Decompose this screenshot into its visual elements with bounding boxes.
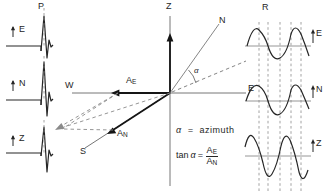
p-wave-traces	[6, 8, 53, 172]
vector-label-AN-sub: N	[123, 131, 128, 138]
p-trace-label-E: E	[19, 25, 25, 34]
equation-tan-fraction: AE AN	[205, 146, 218, 166]
equation-tan-denominator-sub: N	[212, 159, 217, 166]
axis-label-Z: Z	[166, 2, 172, 11]
axis-label-N: N	[219, 16, 226, 25]
figure-canvas: P E N Z Z W S N E AE AN α α = azimuth ta…	[0, 0, 323, 196]
equation-tan-numerator-sub: E	[213, 148, 217, 155]
construction-dash-2	[62, 129, 113, 130]
equation-tan-denominator: AN	[205, 157, 218, 167]
vector-label-AE-sub: E	[132, 78, 136, 85]
r-wave-traces	[245, 22, 315, 191]
vector-resultant-arrowhead	[55, 123, 65, 130]
equation-tangent: tanα= AE AN	[176, 146, 218, 166]
equation-tan-symbol: α	[189, 150, 198, 160]
ray-N-line	[170, 24, 219, 93]
r-wave-panel-label: R	[262, 3, 269, 12]
equation-azimuth-symbol: α	[176, 125, 181, 135]
p-trace-E	[6, 8, 53, 58]
r-trace-N	[245, 85, 315, 115]
vector-label-AN: AN	[117, 129, 128, 139]
r-trace-label-E: E	[316, 29, 322, 38]
diagram-vector-graphics	[0, 0, 323, 196]
azimuth-angle-symbol: α	[194, 67, 199, 75]
alignment-dashes	[259, 22, 301, 191]
vector-AN-shaft	[113, 93, 170, 130]
construction-dash-resultant	[64, 93, 170, 127]
p-trace-Z	[6, 120, 53, 172]
equation-tan-prefix: tan	[176, 150, 189, 160]
equation-azimuth: α = azimuth	[176, 126, 234, 135]
vector-AE-arrowhead	[111, 90, 119, 97]
vector-label-AE: AE	[126, 76, 136, 86]
r-trace-label-Z: Z	[316, 139, 322, 148]
axis-label-E: E	[248, 84, 254, 93]
r-trace-label-N: N	[316, 85, 323, 94]
p-wave-panel-label: P	[38, 2, 44, 11]
axis-label-S: S	[80, 147, 86, 156]
equation-azimuth-equals: =	[184, 125, 197, 135]
equation-tan-equals: =	[198, 150, 203, 160]
vector-Z-arrowhead	[167, 33, 174, 41]
p-trace-label-N: N	[19, 79, 26, 88]
equation-azimuth-value: azimuth	[199, 125, 234, 135]
axis-label-W: W	[65, 81, 74, 90]
construction-dash-3	[63, 93, 118, 125]
p-trace-N	[6, 56, 53, 116]
ray-E-dashed	[172, 61, 246, 92]
p-trace-label-Z: Z	[19, 134, 25, 143]
